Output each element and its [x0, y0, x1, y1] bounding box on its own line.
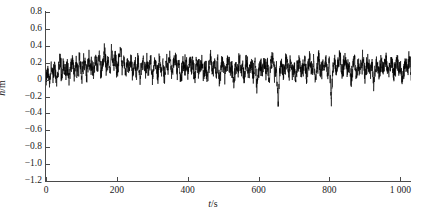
y-axis-tick: [46, 63, 50, 64]
y-axis-tick: [46, 130, 50, 131]
series-h-polyline: [46, 43, 411, 106]
x-axis-spine: [45, 181, 411, 182]
x-axis-tick-label: 200: [110, 186, 124, 196]
x-axis-tick: [400, 177, 401, 181]
y-axis-tick-label: −0.8: [0, 142, 42, 152]
x-axis-unit: s: [214, 198, 218, 209]
y-axis-tick: [46, 181, 50, 182]
x-axis-tick: [117, 177, 118, 181]
x-axis-tick: [188, 177, 189, 181]
x-axis-tick: [259, 177, 260, 181]
y-axis-tick-label: 0.6: [0, 24, 42, 34]
y-axis-tick-label: −0.4: [0, 108, 42, 118]
plot-area: [46, 12, 411, 181]
y-axis-tick: [46, 147, 50, 148]
x-axis-tick: [329, 177, 330, 181]
y-axis-title: h/m: [0, 80, 7, 96]
y-axis-tick: [46, 97, 50, 98]
y-axis-tick: [46, 113, 50, 114]
y-axis-tick: [46, 46, 50, 47]
y-axis-tick: [46, 12, 50, 13]
y-axis-symbol: h: [0, 91, 7, 96]
x-axis-tick-label: 1 000: [390, 186, 411, 196]
x-axis-tick-label: 0: [44, 186, 49, 196]
x-axis-tick-label: 800: [322, 186, 336, 196]
y-axis-tick-label: −1.2: [0, 176, 42, 186]
y-axis-tick-label: 0.8: [0, 7, 42, 17]
y-axis-unit: m: [0, 80, 7, 88]
x-axis-tick: [46, 177, 47, 181]
y-axis-tick: [46, 80, 50, 81]
y-axis-tick-label: 0.4: [0, 41, 42, 51]
x-axis-title: t/s: [208, 199, 217, 209]
y-axis-tick-label: 0.2: [0, 58, 42, 68]
y-axis-slash: /: [0, 88, 7, 91]
x-axis-tick-label: 400: [181, 186, 195, 196]
data-line-series: [46, 12, 411, 181]
y-axis-tick: [46, 164, 50, 165]
y-axis-tick-label: −1.0: [0, 159, 42, 169]
y-axis-tick-label: −0.6: [0, 125, 42, 135]
chart-figure: 0.80.60.40.20−0.2−0.4−0.6−0.8−1.0−1.2020…: [0, 0, 425, 218]
x-axis-tick-label: 600: [251, 186, 265, 196]
y-axis-tick: [46, 29, 50, 30]
